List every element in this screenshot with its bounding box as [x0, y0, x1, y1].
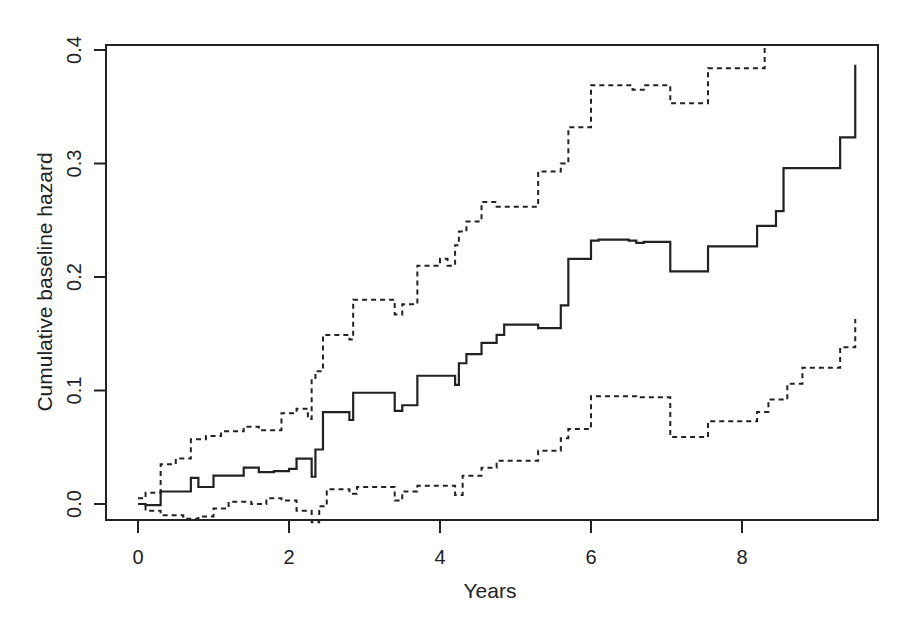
x-tick-label: 0: [132, 546, 143, 568]
x-tick-label: 2: [283, 546, 294, 568]
y-tick-label: 0.4: [63, 36, 85, 64]
x-tick-label: 6: [585, 546, 596, 568]
y-tick-label: 0.2: [63, 263, 85, 291]
y-tick-label: 0.0: [63, 490, 85, 518]
x-axis-title: Years: [464, 579, 517, 602]
hazard-chart: 02468 0.00.10.20.30.4 Years Cumulative b…: [0, 0, 916, 625]
y-tick-label: 0.3: [63, 150, 85, 178]
x-tick-label: 8: [736, 546, 747, 568]
y-tick-label: 0.1: [63, 377, 85, 405]
y-axis-title: Cumulative baseline hazard: [33, 152, 56, 411]
x-tick-label: 4: [434, 546, 445, 568]
